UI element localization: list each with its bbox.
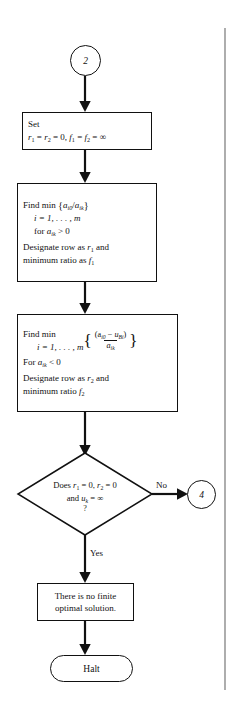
dual-fraction: (ai0 − uBi) aik [93,330,129,351]
findmin-line2: i = 1, . . . , m [23,212,151,224]
find-min-primal-box[interactable]: Find min {ai0/aik} i = 1, . . . , m for … [17,183,157,282]
no-finite-line1: There is no finite [55,590,117,602]
dual-frac-numerator: (ai0 − uBi) [93,330,129,340]
findmin-line3: for aik > 0 [23,225,151,238]
set-infinity: ∞ [100,132,106,142]
findmin-line4: Designate row as r1 and [23,241,151,254]
entry-connector-2[interactable]: 2 [70,45,101,76]
findmin-find: Find min [23,200,56,210]
findmin-f1-sub: 1 [91,259,94,265]
dual-and: and [94,373,109,383]
no-finite-solution-box[interactable]: There is no finite optimal solution. [37,583,134,621]
set-box-line2: r1 = r2 = 0, f1 = f2 = ∞ [28,131,146,144]
findmin-ratio-as: minimum ratio as [23,255,89,265]
dual-ratio: minimum ratio [23,386,79,396]
dual-den-a-sub: ik [111,345,115,351]
dual-num-u-sub: Bi [119,334,124,340]
find-min-dual-box[interactable]: Find min i = 1, . . . , m { (ai0 − uBi) … [17,314,178,412]
decision-diamond [18,453,152,535]
flowchart-canvas: 2 Set r1 = r2 = 0, f1 = f2 = ∞ Find min … [0,0,236,710]
findmin-and: and [94,242,109,252]
findmin-line5: minimum ratio as f1 [23,254,151,267]
set-box-line1: Set [28,118,146,130]
dual-line5: minimum ratio f2 [23,385,172,398]
halt-label: Halt [83,664,99,674]
dual-brace-open: { [84,336,92,345]
dual-brace-close: } [129,336,137,345]
set-box[interactable]: Set r1 = r2 = 0, f1 = f2 = ∞ [22,112,152,150]
yes-branch-label: Yes [90,548,103,558]
dual-for: For [23,357,38,367]
dual-minexpr: Find min i = 1, . . . , m { (ai0 − uBi) … [23,328,172,352]
exit-connector-4[interactable]: 4 [187,480,216,509]
findmin-for-rel: > 0 [56,226,70,236]
set-eq4: = [90,132,100,142]
exit-connector-label: 4 [199,490,204,500]
dual-line4: Designate row as r2 and [23,372,172,385]
findmin-for: for [34,226,47,236]
dual-f2-sub: 2 [82,390,85,396]
findmin-brace-close: } [84,200,89,211]
dual-line2: i = 1, . . . , m [23,341,84,353]
dual-designate: Designate row as [23,373,87,383]
findmin-line1: Find min {ai0/aik} [23,199,151,213]
no-branch-label: No [156,480,167,490]
dual-for-rel: < 0 [47,357,61,367]
set-eq1: = [35,132,45,142]
set-eq2: = 0, [51,132,70,142]
no-finite-line2: optimal solution. [55,602,116,614]
dual-frac-denominator: aik [104,340,116,351]
dual-line1: Find min [23,328,84,340]
findmin-designate: Designate row as [23,242,87,252]
halt-terminator[interactable]: Halt [50,655,133,682]
entry-connector-label: 2 [83,56,88,66]
dual-line3: For aik < 0 [23,356,172,369]
